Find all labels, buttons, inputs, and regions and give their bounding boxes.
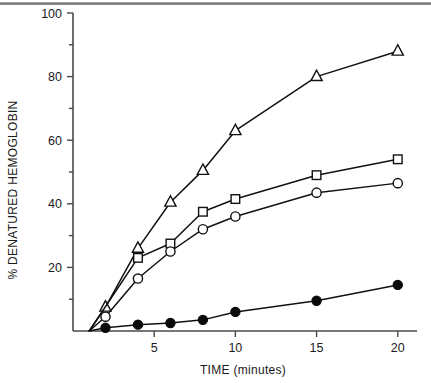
data-point-filled-circle-15 bbox=[312, 296, 321, 305]
x-axis-tick-labels: 5101520 bbox=[151, 341, 405, 355]
y-tick-label-80: 80 bbox=[48, 70, 62, 84]
series-open-square bbox=[89, 155, 402, 331]
data-point-filled-circle-8 bbox=[198, 315, 207, 324]
y-axis-major-ticks bbox=[67, 13, 73, 267]
data-point-open-circle-20 bbox=[393, 179, 402, 188]
data-point-filled-circle-4 bbox=[133, 320, 142, 329]
data-point-open-square-10 bbox=[231, 195, 240, 204]
chart-figure: 20406080100 5101520 TIME (minutes) % DEN… bbox=[0, 0, 431, 383]
data-point-open-triangle-10 bbox=[230, 124, 241, 134]
y-tick-label-60: 60 bbox=[48, 134, 62, 148]
data-point-open-circle-10 bbox=[231, 212, 240, 221]
denatured-hemoglobin-line-chart: 20406080100 5101520 TIME (minutes) % DEN… bbox=[0, 0, 431, 383]
series-filled-circle bbox=[89, 280, 402, 332]
x-tick-label-10: 10 bbox=[228, 341, 242, 355]
data-point-open-circle-8 bbox=[198, 225, 207, 234]
data-point-filled-circle-20 bbox=[393, 280, 402, 289]
x-tick-label-20: 20 bbox=[391, 341, 405, 355]
chart-series-group bbox=[89, 45, 403, 333]
x-tick-label-15: 15 bbox=[310, 341, 324, 355]
data-point-open-square-15 bbox=[312, 171, 321, 180]
y-axis-title: % DENATURED HEMOGLOBIN bbox=[6, 100, 20, 279]
data-point-open-circle-15 bbox=[312, 188, 321, 197]
y-tick-label-20: 20 bbox=[48, 261, 62, 275]
x-axis-title: TIME (minutes) bbox=[200, 363, 286, 377]
x-tick-label-5: 5 bbox=[151, 341, 158, 355]
x-axis-ticks bbox=[154, 331, 398, 337]
data-point-open-circle-6 bbox=[166, 247, 175, 256]
data-point-open-square-8 bbox=[199, 207, 208, 216]
data-point-open-circle-4 bbox=[133, 274, 142, 283]
data-point-filled-circle-10 bbox=[231, 307, 240, 316]
y-axis-tick-labels: 20406080100 bbox=[41, 7, 62, 275]
data-point-open-square-20 bbox=[393, 155, 402, 164]
series-line-open-triangle bbox=[89, 51, 398, 331]
data-point-filled-circle-2 bbox=[101, 323, 110, 332]
data-point-filled-circle-6 bbox=[166, 318, 175, 327]
data-point-open-square-4 bbox=[134, 254, 143, 263]
y-tick-label-100: 100 bbox=[41, 7, 62, 21]
y-tick-label-40: 40 bbox=[48, 197, 62, 211]
data-point-open-circle-2 bbox=[101, 312, 110, 321]
data-point-open-triangle-20 bbox=[392, 45, 403, 55]
